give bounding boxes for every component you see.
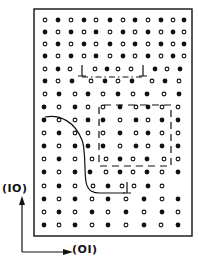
- filled-atom: [42, 118, 47, 123]
- filled-atom: [69, 54, 74, 59]
- open-atom: [56, 30, 60, 34]
- filled-atom: [146, 54, 151, 59]
- open-atom: [94, 42, 98, 46]
- open-atom: [171, 42, 175, 46]
- filled-atom: [42, 223, 47, 228]
- open-atom: [104, 157, 108, 161]
- filled-atom: [121, 54, 126, 59]
- open-atom: [124, 197, 128, 201]
- open-atom: [57, 118, 61, 122]
- open-atom: [133, 54, 137, 58]
- open-atom: [106, 210, 110, 214]
- open-atom: [116, 79, 120, 83]
- open-atom: [146, 118, 150, 122]
- open-atom: [134, 105, 138, 109]
- open-atom: [176, 210, 180, 214]
- solid-curve-boundary: [45, 116, 125, 193]
- filled-atom: [145, 170, 150, 175]
- filled-atom: [118, 170, 123, 175]
- open-atom: [162, 157, 166, 161]
- open-atom: [120, 184, 124, 188]
- open-atom: [165, 67, 169, 71]
- filled-atom: [145, 157, 150, 162]
- filled-atom: [57, 131, 62, 136]
- filled-atom: [103, 79, 108, 84]
- filled-atom: [145, 92, 150, 97]
- open-atom: [90, 197, 94, 201]
- filled-atom: [73, 105, 78, 110]
- open-atom: [104, 170, 108, 174]
- open-atom: [132, 184, 136, 188]
- open-atom: [101, 131, 105, 135]
- filled-atom: [177, 92, 182, 97]
- filled-atom: [176, 223, 181, 228]
- open-atom: [90, 157, 94, 161]
- open-atom: [182, 30, 186, 34]
- open-atom: [89, 79, 93, 83]
- filled-atom: [178, 67, 183, 72]
- filled-atom: [118, 131, 123, 136]
- axis-10-arrowhead-icon: [19, 196, 25, 205]
- open-atom: [90, 223, 94, 227]
- filled-atom: [94, 30, 99, 35]
- open-atom: [69, 42, 73, 46]
- open-atom: [43, 92, 47, 96]
- open-atom: [160, 197, 164, 201]
- open-atom: [69, 18, 73, 22]
- open-atom: [101, 105, 105, 109]
- filled-atom: [108, 18, 113, 23]
- filled-atom: [42, 197, 47, 202]
- filled-atom: [160, 118, 165, 123]
- open-atom: [116, 67, 120, 71]
- filled-atom: [73, 223, 78, 228]
- filled-atom: [134, 118, 139, 123]
- open-atom: [108, 54, 112, 58]
- open-atom: [108, 30, 112, 34]
- filled-atom: [106, 184, 111, 189]
- filled-atom: [42, 105, 47, 110]
- open-atom: [91, 184, 95, 188]
- filled-atom: [42, 144, 47, 149]
- open-atom: [42, 184, 46, 188]
- filled-atom: [163, 79, 168, 84]
- open-atom: [162, 92, 166, 96]
- open-atom: [160, 131, 164, 135]
- open-atom: [73, 210, 77, 214]
- filled-atom: [88, 170, 93, 175]
- filled-atom: [176, 144, 181, 149]
- filled-atom: [133, 18, 138, 23]
- open-atom: [42, 157, 46, 161]
- edge-dislocation-icon: [78, 65, 86, 76]
- filled-atom: [57, 157, 62, 162]
- open-atom: [146, 144, 150, 148]
- atom-grid: [42, 18, 187, 228]
- open-atom: [56, 54, 60, 58]
- open-atom: [93, 67, 97, 71]
- open-atom: [146, 18, 150, 22]
- open-atom: [176, 157, 180, 161]
- filled-atom: [160, 144, 165, 149]
- open-atom: [42, 131, 46, 135]
- filled-atom: [86, 144, 91, 149]
- filled-atom: [105, 67, 110, 72]
- axis-label-01: (OI): [72, 243, 98, 256]
- open-atom: [73, 118, 77, 122]
- open-atom: [124, 223, 128, 227]
- filled-atom: [153, 67, 158, 72]
- filled-atom: [90, 210, 95, 215]
- open-atom: [129, 67, 133, 71]
- open-atom: [182, 54, 186, 58]
- open-atom: [118, 118, 122, 122]
- axis-label-10: (IO): [2, 182, 28, 195]
- filled-atom: [73, 144, 78, 149]
- open-atom: [56, 79, 60, 83]
- open-atom: [176, 105, 180, 109]
- filled-atom: [124, 210, 129, 215]
- filled-atom: [133, 42, 138, 47]
- filled-atom: [159, 18, 164, 23]
- lattice-diagram: [0, 0, 198, 264]
- open-atom: [57, 197, 61, 201]
- filled-atom: [86, 92, 91, 97]
- filled-atom: [106, 223, 111, 228]
- open-atom: [118, 144, 122, 148]
